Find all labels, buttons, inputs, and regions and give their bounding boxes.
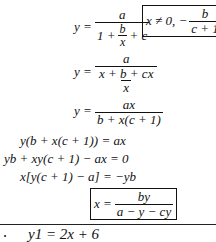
domain-condition-box: x ≠ 0, − b c + 1 (142, 5, 216, 37)
divider (0, 224, 216, 225)
equation-1: y = a 1 + b x + c (74, 8, 149, 49)
next-problem: y1 = 2x + 6 (28, 226, 99, 242)
equation-4: y(b + x(c + 1)) = ax (20, 133, 126, 149)
equation-2: y = a x + b + cx x (74, 52, 157, 95)
equation-5: yb + xy(c + 1) − ax = 0 (4, 151, 129, 167)
result-box: x = by a − y − cy (90, 188, 177, 220)
equation-6: x[y(c + 1) − a] = −yb (20, 169, 136, 185)
equation-3: y = ax b + x(c + 1) (74, 98, 163, 126)
next-problem-bullet: . (3, 223, 7, 241)
